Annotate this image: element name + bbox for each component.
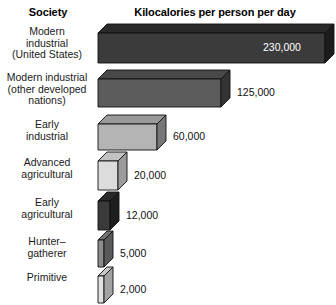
row-label-line: nations) — [0, 95, 94, 107]
row-label: Hunter–gatherer — [0, 236, 94, 259]
bar-value-label: 12,000 — [126, 210, 158, 221]
row-label-line: (United States) — [0, 49, 94, 61]
row-label-line: Primitive — [0, 272, 94, 284]
bar-3d — [98, 267, 115, 305]
row-label: Primitive — [0, 272, 94, 284]
row-label-line: agricultural — [0, 209, 94, 221]
bar-value-label: 60,000 — [173, 131, 205, 142]
bar-face-front — [98, 161, 118, 190]
row-label-line: Advanced — [0, 157, 94, 169]
row-label-line: Modern industrial — [0, 72, 94, 84]
row-label-line: gatherer — [0, 248, 94, 260]
row-label: Modernindustrial(United States) — [0, 26, 94, 61]
column-header-kilocalories: Kilocalories per person per day — [100, 6, 330, 18]
bar-3d — [98, 231, 115, 269]
row-label-line: Early — [0, 197, 94, 209]
bar-3d — [98, 115, 168, 152]
bar-value-label: 2,000 — [120, 284, 146, 295]
bar-face-front — [98, 201, 110, 230]
bar-face-top — [98, 24, 334, 33]
bar-face-top — [98, 70, 230, 79]
bar-face-front — [98, 124, 157, 150]
row-label: Earlyindustrial — [0, 119, 94, 142]
bar-3d — [98, 70, 232, 109]
bar-value-label: 20,000 — [134, 170, 166, 181]
bar-3d — [98, 192, 121, 232]
row-label-line: Hunter– — [0, 236, 94, 248]
bar-face-front — [98, 276, 104, 303]
row-label: Advancedagricultural — [0, 157, 94, 180]
row-label: Earlyagricultural — [0, 197, 94, 220]
bar-face-front — [98, 240, 104, 267]
bar-face-top — [98, 115, 166, 124]
bar-value-label: 230,000 — [263, 42, 301, 53]
row-label-line: Early — [0, 119, 94, 131]
column-header-society: Society — [0, 6, 96, 18]
row-label-line: industrial — [0, 131, 94, 143]
row-label-line: agricultural — [0, 169, 94, 181]
bar-3d — [98, 152, 129, 192]
row-label-line: Modern — [0, 26, 94, 38]
bar-value-label: 125,000 — [237, 87, 275, 98]
row-label: Modern industrial(other developednations… — [0, 72, 94, 107]
bar-face-front — [98, 79, 221, 107]
bar-value-label: 5,000 — [120, 248, 146, 259]
